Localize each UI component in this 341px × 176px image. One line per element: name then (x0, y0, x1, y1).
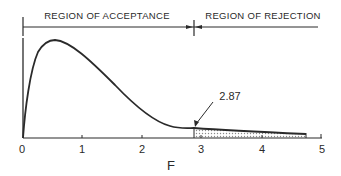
x-tick-label-4: 4 (259, 143, 265, 155)
x-tick-label-0: 0 (19, 143, 25, 155)
annotation-leader (196, 102, 213, 124)
x-axis-title: F (167, 158, 175, 173)
x-tick-label-2: 2 (139, 143, 145, 155)
region-acceptance-label: REGION OF ACCEPTANCE (44, 10, 170, 21)
x-tick-label-5: 5 (319, 143, 325, 155)
region-rejection-label: REGION OF REJECTION (205, 10, 320, 21)
critical-value-label: 2.87 (219, 90, 240, 102)
x-tick-label-3: 3 (198, 143, 204, 155)
arrow-left-icon (195, 25, 202, 29)
f-distribution-chart: REGION OF ACCEPTANCE REGION OF REJECTION… (0, 0, 341, 176)
arrow-right-icon (186, 25, 193, 29)
density-curve (23, 40, 306, 138)
x-tick-label-1: 1 (79, 143, 85, 155)
